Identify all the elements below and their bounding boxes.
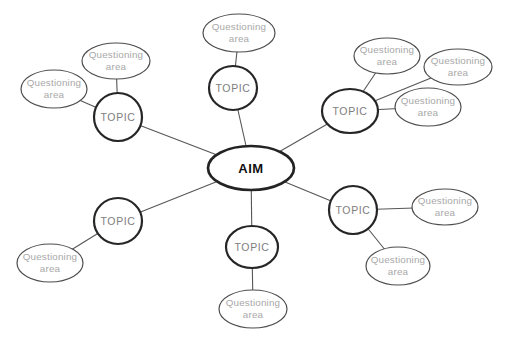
topic-node: TOPIC [226, 226, 278, 268]
topic-label: TOPIC [101, 215, 136, 227]
aim-label: AIM [238, 161, 264, 176]
questioning-area-node: Questioningarea [366, 247, 430, 285]
topic-label: TOPIC [235, 241, 270, 253]
topic-label: TOPIC [101, 111, 136, 123]
topic-label: TOPIC [216, 82, 251, 94]
questioning-area-node: Questioningarea [203, 14, 275, 52]
topic-node: TOPIC [329, 186, 377, 234]
topic-node: TOPIC [322, 89, 378, 133]
questioning-area-node: Questioningarea [21, 70, 87, 108]
mind-map-canvas: QuestioningareaQuestioningareaQuestionin… [0, 0, 505, 340]
topic-label: TOPIC [333, 105, 368, 117]
aim-node: AIM [208, 146, 294, 190]
topic-node: TOPIC [209, 66, 257, 110]
questioning-area-node: Questioningarea [82, 43, 150, 79]
topic-node: TOPIC [94, 198, 142, 244]
questioning-area-node: Questioningarea [219, 290, 287, 328]
topic-node: TOPIC [94, 93, 142, 141]
mind-map-diagram: QuestioningareaQuestioningareaQuestionin… [0, 0, 505, 340]
questioning-area-node: Questioningarea [424, 49, 492, 85]
topic-label: TOPIC [336, 204, 371, 216]
questioning-area-node: Questioningarea [412, 189, 478, 225]
questioning-area-node: Questioningarea [17, 244, 83, 282]
questioning-area-node: Questioningarea [354, 38, 420, 74]
questioning-area-node: Questioningarea [395, 88, 461, 126]
